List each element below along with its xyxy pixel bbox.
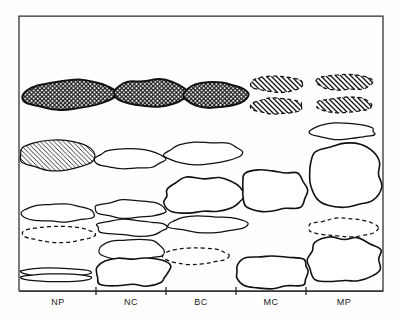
clast-shape xyxy=(99,239,165,261)
clast-outline xyxy=(310,143,382,208)
clast-outline xyxy=(317,97,372,113)
clast-outline xyxy=(309,218,378,237)
clast-shape xyxy=(94,149,166,169)
clast-outline xyxy=(114,79,188,107)
shape-layer xyxy=(20,74,382,289)
x-axis-label-nc: NC xyxy=(124,297,138,307)
x-axis-label-mc: MC xyxy=(263,297,278,307)
clast-outline xyxy=(168,216,249,233)
clast-shape xyxy=(250,98,301,114)
clast-shape xyxy=(20,140,95,171)
figure-container: NPNCBCMCMP xyxy=(0,0,401,323)
clast-outline xyxy=(96,258,171,286)
clast-shape xyxy=(162,248,229,265)
clast-shape xyxy=(251,76,303,92)
clast-shape xyxy=(96,219,167,236)
clast-outline xyxy=(309,123,375,140)
clast-shape xyxy=(164,177,244,213)
clast-shape xyxy=(316,74,373,90)
clast-outline xyxy=(95,200,166,219)
clast-shape xyxy=(317,97,372,113)
clast-shape xyxy=(163,142,242,165)
clast-shape xyxy=(309,218,378,237)
clast-outline xyxy=(243,170,308,212)
clast-shape xyxy=(20,274,91,282)
clast-outline xyxy=(251,76,303,92)
x-axis-label-mp: MP xyxy=(337,297,352,307)
clast-shape xyxy=(22,226,95,242)
clast-outline xyxy=(162,248,229,265)
clast-shape xyxy=(243,170,308,212)
clast-outline xyxy=(94,149,166,169)
clast-outline xyxy=(20,274,91,282)
clast-shape xyxy=(309,123,375,140)
clast-outline xyxy=(307,237,381,282)
clast-shape xyxy=(236,256,308,289)
diagram-canvas: NPNCBCMCMP xyxy=(0,0,401,323)
x-axis: NPNCBCMCMP xyxy=(19,287,383,307)
clast-outline xyxy=(22,226,95,242)
clast-shape xyxy=(310,143,382,208)
clast-shape xyxy=(183,82,248,108)
x-axis-label-bc: BC xyxy=(194,297,208,307)
x-axis-label-np: NP xyxy=(51,297,65,307)
clast-outline xyxy=(164,177,244,213)
clast-shape xyxy=(96,258,171,286)
clast-shape xyxy=(21,204,94,222)
clast-outline xyxy=(20,140,95,171)
clast-outline xyxy=(183,82,248,108)
clast-shape xyxy=(114,79,188,107)
clast-outline xyxy=(236,256,308,289)
clast-outline xyxy=(99,239,165,261)
clast-outline xyxy=(250,98,301,114)
clast-outline xyxy=(21,204,94,222)
clast-outline xyxy=(316,74,373,90)
clast-shape xyxy=(307,237,381,282)
clast-shape xyxy=(95,200,166,219)
clast-shape xyxy=(22,79,117,109)
clast-outline xyxy=(96,219,167,236)
clast-shape xyxy=(168,216,249,233)
clast-outline xyxy=(163,142,242,165)
clast-outline xyxy=(22,79,117,109)
